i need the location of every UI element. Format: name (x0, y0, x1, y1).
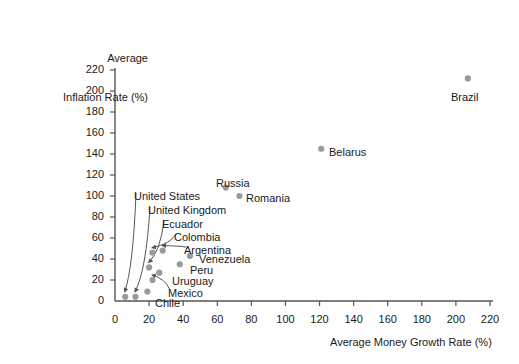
y-tick-label: 0 (74, 294, 104, 306)
data-point (177, 261, 183, 267)
leader-line (162, 246, 186, 247)
y-tick-label: 180 (74, 105, 104, 117)
data-point (149, 250, 155, 256)
point-label: Colombia (174, 231, 220, 243)
point-label: Ecuador (162, 218, 203, 230)
data-point (144, 288, 150, 294)
data-point (318, 146, 324, 152)
leader-line (135, 207, 150, 292)
x-tick-label: 180 (407, 313, 437, 325)
x-tick-label: 140 (339, 313, 369, 325)
point-label: Belarus (329, 146, 366, 158)
y-tick-label: 60 (74, 231, 104, 243)
y-tick-label: 20 (74, 273, 104, 285)
data-point (156, 270, 162, 276)
x-tick-label: 220 (475, 313, 505, 325)
point-label: United States (134, 190, 200, 202)
x-tick-label: 120 (305, 313, 335, 325)
y-tick-label: 220 (74, 63, 104, 75)
x-tick-label: 200 (441, 313, 471, 325)
leader-line (125, 193, 136, 292)
y-tick-label: 200 (74, 84, 104, 96)
y-tick-label: 120 (74, 168, 104, 180)
data-point (160, 248, 166, 254)
point-label: Brazil (451, 91, 479, 103)
x-tick-label: 80 (236, 313, 266, 325)
x-tick-label: 0 (100, 313, 130, 325)
x-axis-title: Average Money Growth Rate (%) (330, 336, 492, 349)
y-tick-label: 100 (74, 189, 104, 201)
point-label: United Kingdom (148, 204, 226, 216)
scatter-chart: Average Inflation Rate (%) Average Money… (0, 0, 519, 364)
data-point (132, 294, 138, 300)
y-tick-label: 140 (74, 147, 104, 159)
data-point (146, 264, 152, 270)
point-label: Uruguay (172, 275, 214, 287)
x-tick-label: 160 (373, 313, 403, 325)
point-label: Romania (246, 192, 290, 204)
y-tick-label: 160 (74, 126, 104, 138)
point-label: Russia (216, 177, 250, 189)
y-tick-label: 40 (74, 252, 104, 264)
x-tick-label: 100 (270, 313, 300, 325)
x-tick-label: 40 (168, 313, 198, 325)
data-point (465, 75, 471, 81)
data-point (236, 193, 242, 199)
point-label: Chile (155, 297, 180, 309)
data-point (149, 277, 155, 283)
y-tick-label: 80 (74, 210, 104, 222)
x-tick-label: 60 (202, 313, 232, 325)
x-tick-label: 20 (134, 313, 164, 325)
data-point (122, 294, 128, 300)
